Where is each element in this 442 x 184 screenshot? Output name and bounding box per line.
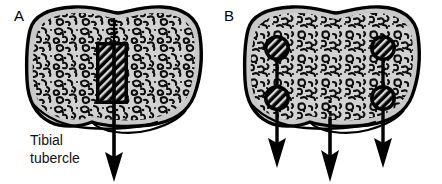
panel-b-letter: B — [224, 7, 234, 24]
panel-b-screw-lower-right — [370, 85, 396, 111]
panel-a-letter: A — [14, 7, 24, 24]
panel-a-implant-block — [96, 42, 128, 104]
panel-b-screw-lower-left — [264, 85, 290, 111]
panel-b-screw-upper-left — [264, 35, 290, 61]
tibial-tubercle-label-line1: Tibial — [30, 132, 63, 148]
panel-b-screw-upper-right — [370, 35, 396, 61]
panel-b-bone — [245, 7, 420, 133]
figure-root: A — [0, 0, 442, 184]
tibial-tubercle-label-line2: tubercle — [30, 150, 80, 166]
anatomical-figure: A — [0, 0, 442, 184]
